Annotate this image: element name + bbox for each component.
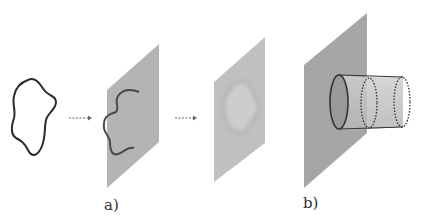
label-a: a) <box>104 196 119 214</box>
plane-with-open-curve <box>107 44 159 188</box>
dashed-arrow-1 <box>69 116 92 121</box>
cylinder-tube <box>330 75 410 130</box>
dashed-arrow-2 <box>175 116 197 121</box>
label-b: b) <box>303 194 318 212</box>
closed-loop-curve <box>12 79 56 155</box>
diagram-canvas <box>0 0 425 220</box>
